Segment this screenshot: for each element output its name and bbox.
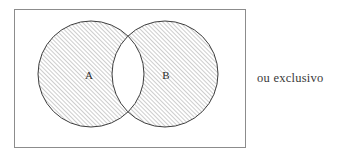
set-label-b: B xyxy=(162,69,170,81)
venn-diagram-figure: A B ou exclusivo xyxy=(0,0,341,160)
figure-caption: ou exclusivo xyxy=(257,70,324,86)
set-label-a: A xyxy=(85,69,93,81)
